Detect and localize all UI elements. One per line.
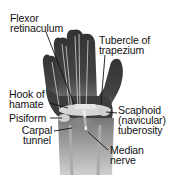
label-pisiform-line1: Pisiform — [9, 113, 46, 123]
label-scaphoid-tuberosity: Scaphoid (navicular) tuberosity — [118, 105, 166, 135]
label-scaphoid-tuberosity-line3: tuberosity — [118, 125, 166, 135]
label-median-nerve-line2: nerve — [110, 155, 144, 165]
label-median-nerve: Median nerve — [110, 145, 144, 165]
label-pisiform: Pisiform — [9, 113, 46, 123]
label-tubercle-of-trapezium: Tubercle of trapezium — [99, 35, 150, 55]
label-hook-of-hamate: Hook of hamate — [9, 89, 45, 109]
label-hook-of-hamate-line2: hamate — [9, 99, 45, 109]
label-flexor-retinaculum-line2: retinaculum — [10, 23, 63, 33]
label-flexor-retinaculum: Flexor retinaculum — [10, 13, 63, 33]
label-tubercle-of-trapezium-line2: trapezium — [99, 45, 150, 55]
label-carpal-tunnel-line2: tunnel — [19, 135, 55, 145]
label-carpal-tunnel: Carpal tunnel — [19, 125, 55, 145]
hand-anatomy-diagram: Flexor retinaculum Tubercle of trapezium… — [0, 0, 176, 175]
